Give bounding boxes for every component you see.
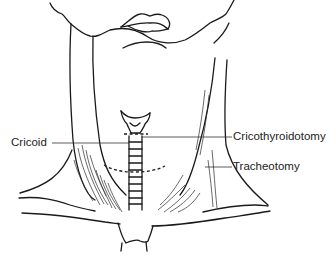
sternal-notch — [118, 223, 153, 243]
tracheotomy-incision — [104, 165, 165, 172]
label-tracheotomy: Tracheotomy — [233, 161, 300, 173]
chin-crease — [123, 42, 166, 48]
clavicle — [22, 213, 120, 224]
jaw-line — [50, 0, 234, 43]
larynx — [121, 111, 150, 133]
label-cricoid: Cricoid — [11, 137, 47, 149]
neck-left — [19, 24, 126, 212]
trachea — [129, 136, 142, 210]
label-cricothyroidotomy: Cricothyroidotomy — [233, 131, 326, 143]
